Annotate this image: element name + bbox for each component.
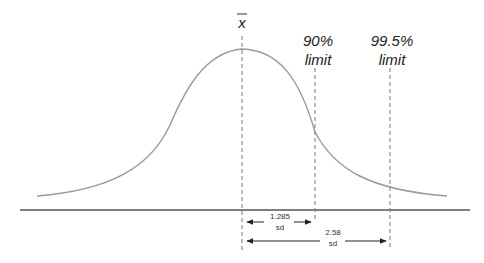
mean-label: x [237,14,246,31]
normal-distribution-diagram: x 90% limit 99.5% limit 1.285 sd 2.58 sd [0,0,484,263]
sd-258-unit: sd [329,239,337,248]
sd-258-value: 2.58 [325,228,341,237]
limit-90-label-line1: 90% [303,32,333,49]
sd-1285-value: 1.285 [270,212,291,221]
limit-90-label-line2: limit [305,51,332,68]
limit-995-label-line1: 99.5% [371,32,414,49]
diagram-canvas: x 90% limit 99.5% limit 1.285 sd 2.58 sd [0,0,484,263]
limit-995-label-line2: limit [379,51,406,68]
sd-1285-unit: sd [276,223,284,232]
